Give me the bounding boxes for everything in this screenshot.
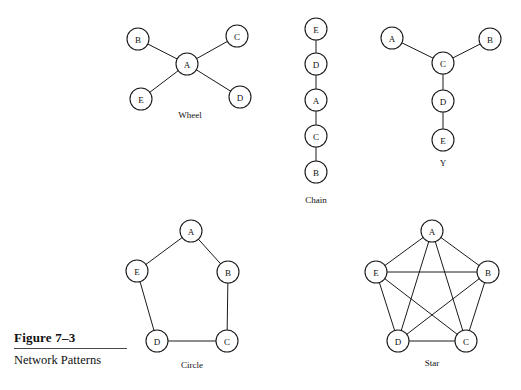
node-label: C: [463, 337, 469, 347]
node-label: E: [138, 95, 144, 105]
node-e: E: [126, 260, 148, 282]
node-b: B: [217, 261, 239, 283]
edge-b-c: [452, 44, 480, 58]
node-b: B: [127, 28, 149, 50]
edge-a-b: [198, 239, 221, 264]
node-label: D: [395, 337, 402, 347]
edge-b-d: [406, 278, 479, 334]
node-label: A: [188, 227, 195, 237]
node-b: B: [477, 261, 499, 283]
node-label: C: [224, 337, 230, 347]
node-label: C: [234, 32, 240, 42]
node-label: C: [313, 132, 319, 142]
node-b: B: [479, 28, 501, 50]
edges-star: [379, 237, 485, 341]
edge-a-d: [196, 70, 231, 92]
node-c: C: [432, 52, 454, 74]
pattern-caption-star: Star: [425, 358, 440, 368]
node-a: A: [421, 220, 443, 242]
node-label: B: [225, 268, 231, 278]
node-c: C: [226, 25, 248, 47]
node-a: A: [381, 27, 403, 49]
node-label: E: [134, 267, 140, 277]
pattern-star: ABCDEStar: [365, 220, 499, 368]
edge-a-e: [149, 70, 178, 92]
pattern-chain: EDACBChain: [305, 18, 327, 205]
node-d: D: [432, 90, 454, 112]
figure-caption-block: Figure 7–3 Network Patterns: [14, 330, 134, 368]
node-e: E: [305, 18, 327, 40]
pattern-caption-wheel: Wheel: [178, 110, 202, 120]
figure-network-patterns: ABCDEWheelEDACBChainABCDEYABCDECircleABC…: [0, 0, 521, 390]
edge-a-e: [384, 237, 423, 266]
pattern-caption-y: Y: [440, 158, 447, 168]
edge-d-e: [379, 282, 395, 331]
node-label: D: [154, 337, 161, 347]
node-d: D: [229, 86, 251, 108]
node-c: C: [216, 330, 238, 352]
node-d: D: [305, 53, 327, 75]
node-label: D: [440, 97, 447, 107]
edge-c-e: [384, 278, 457, 334]
node-label: A: [429, 227, 436, 237]
node-e: E: [365, 261, 387, 283]
node-label: E: [440, 136, 446, 146]
node-a: A: [305, 89, 327, 111]
figure-number: Figure 7–3: [14, 330, 134, 345]
edge-a-b: [440, 237, 479, 266]
edge-a-b: [147, 44, 177, 59]
figure-title: Network Patterns: [14, 353, 134, 368]
node-a: A: [176, 53, 198, 75]
node-label: B: [487, 35, 493, 45]
node-c: C: [455, 330, 477, 352]
node-d: D: [146, 330, 168, 352]
edge-a-d: [401, 241, 429, 331]
pattern-caption-circle: Circle: [181, 360, 203, 370]
node-e: E: [130, 88, 152, 110]
caption-divider: [14, 348, 127, 349]
pattern-circle: ABCDECircle: [126, 220, 239, 370]
node-d: D: [387, 330, 409, 352]
pattern-caption-chain: Chain: [305, 195, 327, 205]
node-label: A: [389, 34, 396, 44]
node-label: B: [313, 168, 319, 178]
node-label: B: [135, 35, 141, 45]
node-e: E: [432, 129, 454, 151]
node-label: D: [313, 60, 320, 70]
patterns-layer: ABCDEWheelEDACBChainABCDEYABCDECircleABC…: [126, 18, 501, 370]
node-label: A: [184, 60, 191, 70]
node-c: C: [305, 125, 327, 147]
node-label: E: [313, 25, 319, 35]
edge-a-c: [435, 241, 463, 331]
pattern-wheel: ABCDEWheel: [127, 25, 251, 120]
node-label: C: [440, 59, 446, 69]
node-label: B: [485, 268, 491, 278]
edge-b-c: [227, 283, 228, 331]
edge-b-c: [469, 282, 485, 331]
node-b: B: [305, 161, 327, 183]
edge-d-e: [140, 281, 154, 331]
edge-a-c: [401, 43, 433, 59]
pattern-y: ABCDEY: [381, 27, 501, 168]
node-label: D: [237, 93, 244, 103]
node-label: A: [313, 96, 320, 106]
node-a: A: [180, 220, 202, 242]
edge-a-c: [196, 41, 228, 59]
edges-circle: [140, 237, 228, 341]
edge-e-a: [145, 237, 182, 265]
node-label: E: [373, 268, 379, 278]
